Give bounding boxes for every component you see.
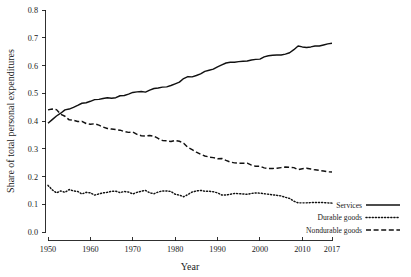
x-tick-label: 2017	[324, 245, 340, 254]
y-tick-label: 0.2	[28, 173, 38, 182]
y-tick-label: 0.4	[28, 117, 38, 126]
x-tick-label: 1960	[82, 245, 98, 254]
x-axis-title: Year	[181, 261, 200, 272]
x-tick-label: 2010	[294, 245, 310, 254]
x-axis-ticks	[48, 237, 332, 241]
legend-label-durable-goods: Durable goods	[318, 213, 363, 222]
x-tick-label: 1950	[40, 245, 56, 254]
x-axis-group: 19501960197019801990200020102017 Year	[40, 237, 340, 273]
y-tick-label: 0.7	[28, 34, 38, 43]
series-line-durable-goods	[48, 185, 332, 203]
y-tick-label: 0.1	[28, 200, 38, 209]
series-line-nondurable-goods	[48, 109, 332, 172]
y-axis-title: Share of total personal expenditures	[5, 49, 16, 193]
y-axis-ticks	[42, 10, 46, 232]
y-tick-label: 0.5	[28, 89, 38, 98]
y-tick-label: 0.0	[28, 228, 38, 237]
series-line-services	[48, 43, 332, 123]
data-series-group	[48, 43, 332, 203]
y-tick-label: 0.6	[28, 62, 38, 71]
y-tick-label: 0.3	[28, 145, 38, 154]
x-tick-label: 1970	[125, 245, 141, 254]
y-tick-label: 0.8	[28, 6, 38, 15]
legend-label-nondurable-goods: Nondurable goods	[306, 226, 362, 235]
legend-label-services: Services	[336, 201, 362, 210]
chart-figure: 0.00.10.20.30.40.50.60.70.8 Share of tot…	[0, 0, 411, 277]
chart-legend: ServicesDurable goodsNondurable goods	[306, 201, 400, 235]
y-axis-group: 0.00.10.20.30.40.50.60.70.8 Share of tot…	[5, 6, 46, 237]
x-axis-tick-labels: 19501960197019801990200020102017	[40, 245, 340, 254]
expenditure-share-line-chart: 0.00.10.20.30.40.50.60.70.8 Share of tot…	[0, 0, 411, 277]
y-axis-tick-labels: 0.00.10.20.30.40.50.60.70.8	[28, 6, 38, 237]
x-tick-label: 1980	[167, 245, 183, 254]
x-tick-label: 1990	[209, 245, 225, 254]
x-tick-label: 2000	[252, 245, 268, 254]
